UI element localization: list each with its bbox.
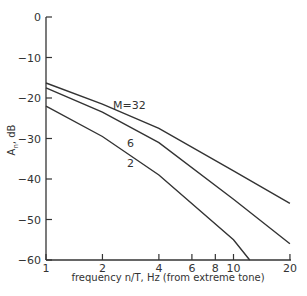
curve-6 bbox=[46, 88, 290, 244]
y-tick-label: −10 bbox=[18, 52, 41, 65]
chart: 0−10−20−30−40−50−60 124681020 M=3262 fre… bbox=[0, 0, 307, 296]
curve-label: 6 bbox=[127, 137, 134, 150]
curve-label: M=32 bbox=[113, 99, 146, 112]
y-tick-label: 0 bbox=[34, 11, 41, 24]
curve-2 bbox=[46, 106, 250, 260]
x-tick-label: 1 bbox=[43, 262, 50, 275]
x-axis-label: frequency n/T, Hz (from extreme tone) bbox=[71, 272, 264, 283]
y-tick-label: −50 bbox=[18, 214, 41, 227]
curve-label: 2 bbox=[127, 157, 134, 170]
x-tick-label: 20 bbox=[283, 262, 297, 275]
y-tick-label: −30 bbox=[18, 133, 41, 146]
curve-m-32 bbox=[46, 83, 290, 203]
y-tick-label: −40 bbox=[18, 173, 41, 186]
y-tick-label: −60 bbox=[18, 254, 41, 267]
y-tick-label: −20 bbox=[18, 92, 41, 105]
